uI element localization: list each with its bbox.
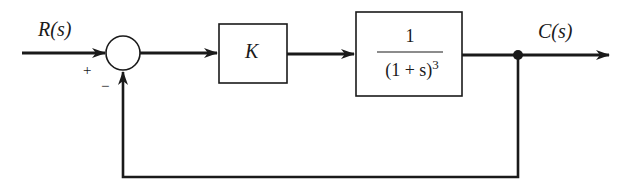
plant-denominator-base: (1 + s) xyxy=(385,60,432,80)
output-label: C(s) xyxy=(538,20,572,43)
gain-label: K xyxy=(245,40,258,63)
plant-exponent: 3 xyxy=(432,57,439,72)
summing-junction xyxy=(106,36,140,70)
plant-block xyxy=(356,12,462,96)
plant-numerator: 1 xyxy=(377,26,443,47)
block-diagram: R(s) + − K 1 (1 + s)3 C(s) xyxy=(0,0,632,192)
plant-denominator: (1 + s)3 xyxy=(372,57,452,81)
minus-sign: − xyxy=(101,78,109,95)
plus-sign: + xyxy=(83,62,91,79)
input-label: R(s) xyxy=(38,18,71,41)
